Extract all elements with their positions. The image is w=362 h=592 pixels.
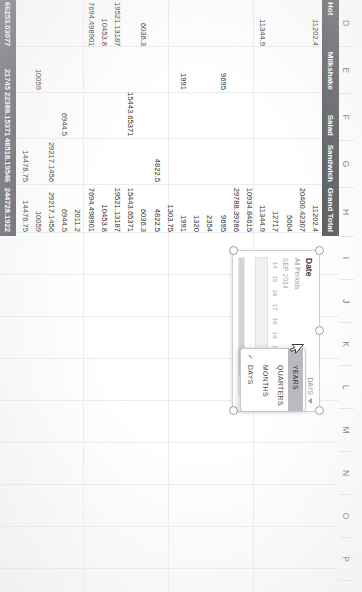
cell-hot[interactable]: 11344.9 [256, 2, 269, 46]
slicer-tick: 16 [272, 287, 279, 299]
cell-grand-total[interactable]: 1320 [190, 184, 203, 232]
table-row[interactable]: 19911991 [177, 0, 190, 236]
table-row[interactable]: 10934.84615 [243, 0, 256, 236]
column-header-O[interactable]: O [339, 495, 354, 538]
table-row[interactable]: 1005910059 [32, 0, 45, 236]
cell-grand-total[interactable]: 1991 [177, 184, 190, 232]
column-header-N[interactable]: N [339, 452, 354, 495]
slicer-tick: 19 [272, 329, 279, 341]
column-header-K[interactable]: K [339, 323, 354, 366]
menu-item-days[interactable]: ✓ DAYS [243, 349, 258, 411]
cell-grand-total[interactable]: 11344.9 [256, 184, 269, 232]
cell-grand-total[interactable]: 12717 [269, 184, 282, 232]
table-row[interactable]: 96959695 [216, 0, 229, 236]
table-row[interactable]: 4822.54822.5 [150, 0, 163, 236]
column-header-D[interactable]: D [339, 0, 354, 47]
cell-grand-total[interactable]: 15443.65371 [124, 184, 137, 232]
menu-item-label: YEARS [292, 365, 299, 390]
slicer-level-dropdown-menu[interactable]: YEARS QUARTERS MONTHS ✓ DAYS [240, 348, 306, 412]
table-row[interactable]: 1303.75 [164, 0, 177, 236]
grid-vline [0, 442, 339, 443]
cell-sandwich[interactable]: 14478.75 [18, 138, 31, 182]
slicer-tick: 14 [272, 259, 279, 271]
shape-handle-top-left[interactable] [315, 246, 324, 255]
column-header-G[interactable]: G [339, 141, 354, 188]
cell-salad[interactable]: 6944.5 [58, 92, 71, 136]
cell-grand-total[interactable]: 5004 [282, 184, 295, 232]
column-header-E[interactable]: E [339, 47, 354, 94]
table-row[interactable]: 11202.411202.4 [309, 0, 322, 236]
cell-milkshake[interactable]: 1991 [177, 46, 190, 90]
cell-grand-total[interactable]: 29788.39286 [230, 184, 243, 232]
menu-item-quarters[interactable]: QUARTERS [273, 349, 288, 411]
cell-sandwich[interactable]: 29217.1456 [45, 138, 58, 182]
menu-item-months[interactable]: MONTHS [258, 349, 273, 411]
table-row[interactable]: 14478.7514478.75 [18, 0, 31, 236]
table-row[interactable]: 7694.4989017694.498901 [84, 0, 97, 236]
table-row[interactable]: 2354 [203, 0, 216, 236]
cell-salad[interactable]: 15443.65371 [124, 92, 137, 136]
column-header-M[interactable]: M [339, 409, 354, 452]
table-row[interactable]: 11344.911344.9 [256, 0, 269, 236]
grand-total-overall: 244728.1922 [0, 184, 16, 232]
column-header-P[interactable]: P [339, 538, 354, 581]
grand-total-milkshake: 21745 [0, 46, 16, 90]
check-icon: ✓ [243, 354, 258, 360]
cell-milkshake[interactable]: 10059 [32, 46, 45, 90]
cell-milkshake[interactable]: 9695 [216, 46, 229, 90]
cell-grand-total[interactable]: 2011.2 [71, 184, 84, 232]
cell-grand-total[interactable]: 10059 [32, 184, 45, 232]
cell-sandwich[interactable]: 4822.5 [150, 138, 163, 182]
pivot-row-header-hot: Hot [322, 2, 339, 46]
cell-grand-total[interactable]: 10934.84615 [243, 184, 256, 232]
shape-handle-top-right[interactable] [315, 406, 324, 415]
table-row[interactable]: 6944.56944.5 [58, 0, 71, 236]
grand-total-hot: 66253.03077 [0, 2, 16, 46]
cell-hot[interactable]: 7694.498901 [84, 2, 97, 46]
chevron-down-icon[interactable] [308, 398, 312, 404]
cell-grand-total[interactable]: 19521.13187 [111, 184, 124, 232]
table-row[interactable]: 10453.810453.8 [98, 0, 111, 236]
cell-grand-total[interactable]: 20400.42307 [296, 184, 309, 232]
cell-grand-total[interactable]: 4822.5 [150, 184, 163, 232]
cell-grand-total[interactable]: 14478.75 [18, 184, 31, 232]
cell-grand-total[interactable]: 2354 [203, 184, 216, 232]
cell-grand-total[interactable]: 7694.498901 [84, 184, 97, 232]
column-header-J[interactable]: J [339, 280, 354, 323]
cell-grand-total[interactable]: 10453.8 [98, 184, 111, 232]
table-row[interactable]: 29217.145629217.1456 [45, 0, 58, 236]
table-row[interactable]: 6036.36036.3 [137, 0, 150, 236]
column-header-L[interactable]: L [339, 366, 354, 409]
table-row[interactable]: 20400.42307 [296, 0, 309, 236]
table-row[interactable]: 29788.39286 [230, 0, 243, 236]
cell-hot[interactable]: 6036.3 [137, 2, 150, 46]
column-header-row: D E F G H I J K L M N O P [339, 0, 354, 592]
table-row[interactable]: 12717 [269, 0, 282, 236]
shape-handle-bottom-left[interactable] [229, 246, 238, 255]
cell-hot[interactable]: 11202.4 [309, 2, 322, 46]
shape-handle-bottom-right[interactable] [229, 406, 238, 415]
menu-item-years[interactable]: YEARS [288, 349, 303, 411]
shape-handle-top-center[interactable] [315, 326, 324, 335]
slicer-subtitle: All Periods [294, 258, 301, 290]
cell-grand-total[interactable]: 9695 [216, 184, 229, 232]
cell-hot[interactable]: 10453.8 [98, 2, 111, 46]
column-header-F[interactable]: F [339, 94, 354, 141]
table-row[interactable]: 15443.6537115443.65371 [124, 0, 137, 236]
slicer-level-label[interactable]: DAYS [307, 378, 314, 395]
column-header-I[interactable]: I [339, 237, 354, 280]
cell-grand-total[interactable]: 6944.5 [58, 184, 71, 232]
column-header-H[interactable]: H [339, 188, 354, 237]
spreadsheet-sheet[interactable]: D E F G H I J K L M N O P [0, 0, 362, 592]
pivot-col-header-sandwich: Sandwich [322, 138, 339, 182]
table-row[interactable]: 19521.1318719521.13187 [111, 0, 124, 236]
cell-hot[interactable]: 19521.13187 [111, 2, 124, 46]
table-row[interactable]: 1320 [190, 0, 203, 236]
cell-grand-total[interactable]: 29217.1456 [45, 184, 58, 232]
cell-grand-total[interactable]: 11202.4 [309, 184, 322, 232]
table-row[interactable]: 5004 [282, 0, 295, 236]
table-row[interactable]: 2011.2 [71, 0, 84, 236]
cell-grand-total[interactable]: 6036.3 [137, 184, 150, 232]
grid-vline [0, 526, 339, 527]
cell-grand-total[interactable]: 1303.75 [164, 184, 177, 232]
